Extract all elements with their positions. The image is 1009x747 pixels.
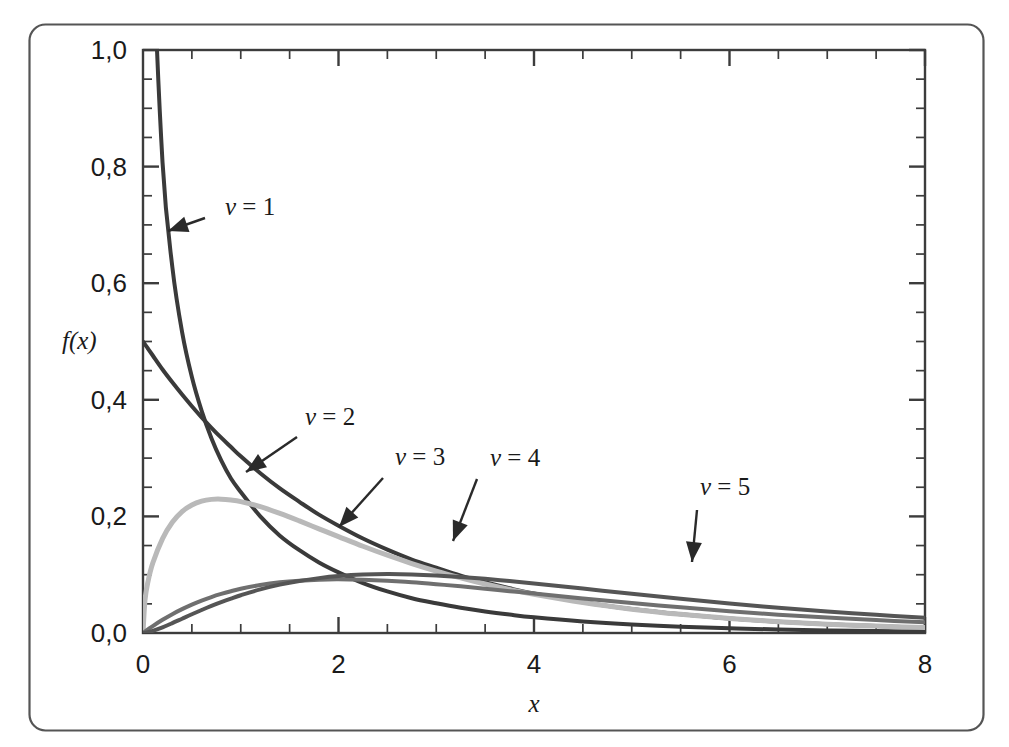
annotation-label-nu-4: ν = 4 [490, 444, 541, 471]
x-tick-label: 4 [527, 649, 541, 679]
figure-container: 02468 0,00,20,40,60,81,0 ν = 1ν = 2ν = 3… [0, 0, 1009, 747]
x-tick-label: 8 [918, 649, 932, 679]
y-tick-label: 0,2 [91, 501, 127, 531]
chart-figure: 02468 0,00,20,40,60,81,0 ν = 1ν = 2ν = 3… [0, 0, 1009, 747]
y-axis-title: f(x) [62, 327, 97, 355]
y-tick-label: 0,8 [91, 152, 127, 182]
x-tick-label: 0 [136, 649, 150, 679]
x-axis-title: x [527, 690, 539, 717]
y-tick-label: 1,0 [91, 35, 127, 65]
x-tick-label: 2 [331, 649, 345, 679]
x-tick-label: 6 [722, 649, 736, 679]
annotation-label-nu-1: ν = 1 [225, 193, 275, 220]
y-tick-label: 0,6 [91, 268, 127, 298]
y-tick-label: 0,4 [91, 385, 127, 415]
annotation-label-nu-3: ν = 3 [395, 443, 445, 470]
annotation-label-nu-5: ν = 5 [700, 473, 750, 500]
y-tick-label: 0,0 [91, 618, 127, 648]
annotation-label-nu-2: ν = 2 [305, 403, 355, 430]
